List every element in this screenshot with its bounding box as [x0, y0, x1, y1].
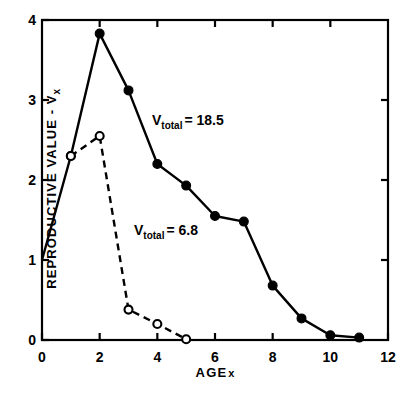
x-tick-label: 4 — [153, 349, 161, 365]
series-line-1 — [42, 34, 359, 338]
series-lines — [42, 34, 359, 340]
data-point-marker — [239, 217, 248, 226]
data-point-marker — [182, 335, 190, 343]
data-point-marker — [182, 181, 191, 190]
x-axis-title: AGEx — [196, 365, 235, 380]
data-point-marker — [297, 314, 306, 323]
data-point-marker — [125, 306, 133, 314]
y-tick-label: 2 — [18, 172, 36, 188]
annotation-value: = 18.5 — [184, 112, 223, 128]
annotation-variable: V — [152, 112, 161, 128]
y-axis-title-variable: x — [51, 89, 62, 95]
series-markers — [66, 29, 363, 343]
x-tick-label: 6 — [211, 349, 219, 365]
y-tick-label: 1 — [18, 252, 36, 268]
data-point-marker — [153, 320, 161, 328]
x-axis-title-text: AGE — [196, 365, 228, 380]
axis-ticks — [42, 20, 388, 340]
y-tick-label: 0 — [18, 332, 36, 348]
x-tick-label: 12 — [380, 349, 396, 365]
data-point-marker — [268, 281, 277, 290]
data-point-marker — [326, 331, 335, 340]
annotation-vtotal-high: Vtotal= 18.5 — [152, 112, 224, 131]
y-axis-title: REPRODUCTIVE VALUE - Vx — [44, 59, 62, 319]
plot-frame — [42, 20, 388, 340]
annotation-vtotal-low: Vtotal= 6.8 — [134, 222, 198, 241]
y-tick-label: 3 — [18, 92, 36, 108]
reproductive-value-chart: 024681012 01234 AGEx REPRODUCTIVE VALUE … — [0, 0, 411, 394]
data-point-marker — [124, 86, 133, 95]
y-axis-title-text: REPRODUCTIVE VALUE - V — [44, 94, 59, 288]
data-point-marker — [355, 333, 364, 342]
data-point-marker — [211, 212, 220, 221]
x-tick-label: 2 — [96, 349, 104, 365]
x-tick-label: 8 — [269, 349, 277, 365]
x-tick-label: 10 — [323, 349, 339, 365]
axis-frame — [42, 20, 388, 340]
data-point-marker — [67, 152, 75, 160]
x-tick-label: 0 — [38, 349, 46, 365]
x-axis-title-variable: x — [228, 367, 234, 379]
data-point-marker — [95, 29, 104, 38]
annotation-variable: V — [134, 222, 143, 238]
y-tick-label: 4 — [18, 12, 36, 28]
data-point-marker — [153, 160, 162, 169]
data-point-marker — [96, 132, 104, 140]
annotation-subscript: total — [143, 230, 164, 241]
annotation-value: = 6.8 — [166, 222, 198, 238]
annotation-subscript: total — [161, 120, 182, 131]
